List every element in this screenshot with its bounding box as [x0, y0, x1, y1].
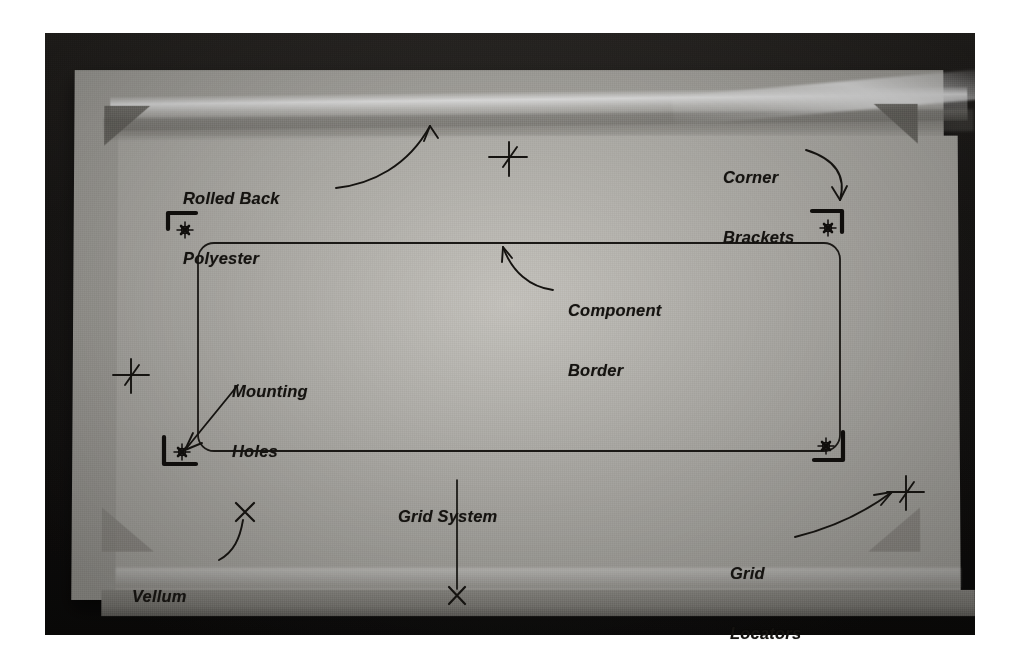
- polyester-roll-highlight: [110, 87, 967, 131]
- board-bevel-edge: [101, 590, 975, 616]
- label-line-2: Brackets: [723, 227, 794, 247]
- corner-fixture-top-right: [874, 104, 918, 144]
- label-line-1: Rolled Back: [183, 188, 280, 208]
- label-vellum: Vellum: [132, 546, 187, 646]
- label-component-border: Component Border: [568, 260, 661, 420]
- label-line-1: Grid: [730, 563, 801, 583]
- label-line-2: Holes: [232, 441, 308, 461]
- corner-fixture-bottom-right: [868, 507, 920, 551]
- label-line-2: Polyester: [183, 248, 280, 268]
- label-line-1: Vellum: [132, 586, 187, 606]
- corner-fixture-top-left: [104, 106, 150, 146]
- label-mounting-holes: Mounting Holes: [232, 341, 308, 501]
- label-grid-system: Grid System: [398, 466, 497, 566]
- label-line-2: Border: [568, 360, 661, 380]
- label-line-1: Grid System: [398, 506, 497, 526]
- polyester-roll-highlight-right: [672, 68, 975, 126]
- label-corner-brackets: Corner Brackets: [723, 127, 794, 287]
- label-line-2: Locators: [730, 623, 801, 643]
- photograph: [45, 33, 975, 635]
- vellum-lower-edge: [116, 568, 961, 588]
- label-grid-locators: Grid Locators: [730, 523, 801, 669]
- figure-canvas: Rolled Back Polyester Corner Brackets Co…: [0, 0, 1017, 669]
- label-line-1: Component: [568, 300, 661, 320]
- label-line-1: Mounting: [232, 381, 308, 401]
- label-rolled-back-polyester: Rolled Back Polyester: [183, 148, 280, 308]
- label-line-1: Corner: [723, 167, 794, 187]
